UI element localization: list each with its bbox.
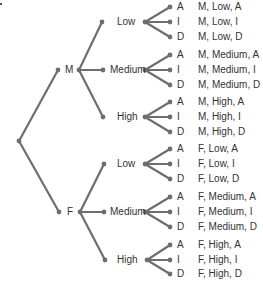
leaf-node xyxy=(168,210,173,215)
level-label: Medium xyxy=(110,64,146,76)
leaf-label: I xyxy=(177,206,180,218)
leaf-label: I xyxy=(177,111,180,123)
outcome-label: F, High, D xyxy=(198,268,242,280)
leaf-line xyxy=(145,197,170,212)
outcome-label: M, Medium, I xyxy=(198,64,256,76)
level-node xyxy=(101,115,106,120)
level-node xyxy=(103,258,108,263)
leaf-line xyxy=(145,212,170,227)
outcome-label: M, High, I xyxy=(198,111,241,123)
outcome-label: F, High, I xyxy=(198,254,237,266)
leaf-line xyxy=(145,7,170,22)
outcome-label: M, Medium, A xyxy=(198,49,259,61)
level-label: Low xyxy=(117,158,135,170)
leaf-node xyxy=(168,147,173,152)
leaf-line xyxy=(147,245,170,260)
outcome-label: F, Medium, I xyxy=(198,206,252,218)
leaf-label: D xyxy=(177,173,184,185)
level-label: Low xyxy=(117,16,135,28)
outcome-label: M, Medium, D xyxy=(198,79,260,91)
branch-node xyxy=(57,210,62,215)
outcome-label: M, High, D xyxy=(198,126,245,138)
leaf-label: A xyxy=(177,143,184,155)
outcome-label: M, Low, D xyxy=(198,31,242,43)
outcome-label: M, Low, I xyxy=(198,16,238,28)
level-line xyxy=(80,164,104,212)
outcome-label: F, Low, D xyxy=(198,173,239,185)
outcome-label: F, Low, A xyxy=(198,143,238,155)
leaf-label: I xyxy=(177,16,180,28)
leaf-node xyxy=(168,243,173,248)
leaf-line xyxy=(145,117,170,132)
level-node xyxy=(102,162,107,167)
leaf-line xyxy=(145,22,170,37)
outcome-label: M, Low, A xyxy=(198,1,241,13)
level-node xyxy=(100,20,105,25)
leaf-label: D xyxy=(177,126,184,138)
level-line xyxy=(79,70,103,117)
leaf-node xyxy=(168,225,173,230)
leaf-label: A xyxy=(177,1,184,13)
leaf-node xyxy=(168,68,173,73)
leaf-node xyxy=(168,83,173,88)
leaf-node xyxy=(168,130,173,135)
leaf-label: A xyxy=(177,49,184,61)
leaf-label: I xyxy=(177,64,180,76)
outcome-label: F, High, A xyxy=(198,239,241,251)
leaf-label: I xyxy=(177,254,180,266)
leaf-node xyxy=(168,162,173,167)
leaf-label: A xyxy=(177,239,184,251)
leaf-line xyxy=(145,149,170,164)
leaf-node xyxy=(168,20,173,25)
leaf-node xyxy=(168,53,173,58)
leaf-label: A xyxy=(177,191,184,203)
leaf-node xyxy=(168,100,173,105)
leaf-line xyxy=(147,260,170,274)
level-line xyxy=(80,212,105,260)
outcome-label: F, Medium, A xyxy=(198,191,256,203)
leaf-line xyxy=(145,55,170,70)
leaf-label: D xyxy=(177,31,184,43)
leaf-label: I xyxy=(177,158,180,170)
level-node xyxy=(102,210,107,215)
leaf-node xyxy=(168,115,173,120)
leaf-label: A xyxy=(177,96,184,108)
level-label: Medium xyxy=(110,206,146,218)
leaf-label: D xyxy=(177,268,184,280)
leaf-node xyxy=(168,258,173,263)
leaf-line xyxy=(145,164,170,179)
branch-line xyxy=(19,141,59,212)
outcome-label: F, Low, I xyxy=(198,158,235,170)
level-line xyxy=(79,22,102,70)
leaf-node xyxy=(168,195,173,200)
leaf-node xyxy=(168,177,173,182)
branch-label: F xyxy=(67,206,73,218)
branch-line xyxy=(19,70,58,141)
leaf-node xyxy=(168,35,173,40)
leaf-label: D xyxy=(177,79,184,91)
leaf-line xyxy=(145,102,170,117)
outcome-label: M, High, A xyxy=(198,96,244,108)
leaf-node xyxy=(168,5,173,10)
leaf-label: D xyxy=(177,221,184,233)
branch-node xyxy=(56,68,61,73)
level-label: High xyxy=(117,111,138,123)
leaf-node xyxy=(168,272,173,277)
branch-label: M xyxy=(65,64,73,76)
level-node xyxy=(101,68,106,73)
leaf-line xyxy=(145,70,170,85)
outcome-label: F, Medium, D xyxy=(198,221,257,233)
level-label: High xyxy=(117,254,138,266)
